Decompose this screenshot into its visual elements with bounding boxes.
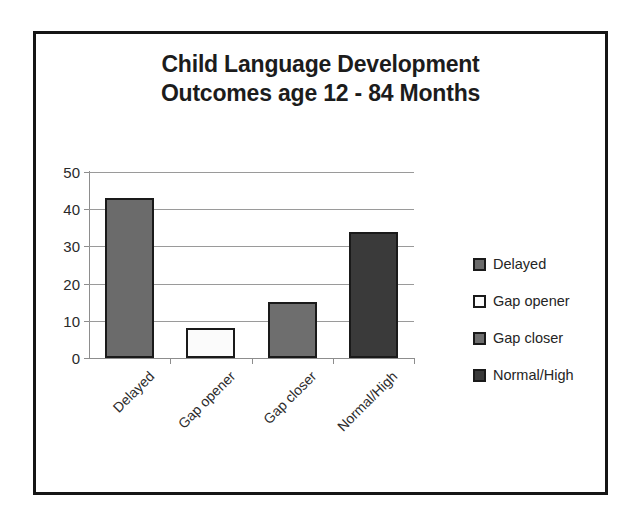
x-tick-label-gap-opener: Gap opener (175, 368, 239, 432)
legend-item-gap-closer[interactable]: Gap closer (473, 330, 603, 346)
chart-legend: DelayedGap openerGap closerNormal/High (473, 256, 603, 404)
bar-gap-opener (186, 328, 235, 358)
legend-label: Gap closer (493, 330, 563, 346)
y-tick-label-20: 20 (63, 275, 80, 292)
x-tick-1 (170, 358, 171, 364)
x-tick-label-gap-closer: Gap closer (260, 368, 319, 427)
y-tick-label-50: 50 (63, 164, 80, 181)
y-tick-label-40: 40 (63, 201, 80, 218)
y-axis-line (89, 171, 90, 359)
legend-label: Delayed (493, 256, 546, 272)
bar-normal-high (349, 232, 398, 358)
bar-delayed (105, 198, 154, 358)
bar-gap-closer (268, 302, 317, 358)
y-tick-label-30: 30 (63, 238, 80, 255)
chart-title-line-2: Outcomes age 12 - 84 Months (36, 79, 605, 108)
legend-swatch-icon (473, 295, 486, 308)
y-tick-20 (84, 284, 89, 285)
y-tick-30 (84, 246, 89, 247)
chart-frame: Child Language Development Outcomes age … (33, 31, 608, 495)
y-tick-label-0: 0 (72, 350, 80, 367)
legend-item-delayed[interactable]: Delayed (473, 256, 603, 272)
x-axis-ticks (89, 358, 414, 364)
y-tick-50 (84, 172, 89, 173)
x-tick-3 (333, 358, 334, 364)
legend-item-normal-high[interactable]: Normal/High (473, 367, 603, 383)
legend-label: Gap opener (493, 293, 570, 309)
legend-label: Normal/High (493, 367, 574, 383)
x-tick-label-normal-high: Normal/High (334, 368, 400, 434)
legend-swatch-icon (473, 369, 486, 382)
chart-title: Child Language Development Outcomes age … (36, 50, 605, 109)
y-tick-40 (84, 209, 89, 210)
y-tick-10 (84, 321, 89, 322)
legend-swatch-icon (473, 332, 486, 345)
chart-title-line-1: Child Language Development (36, 50, 605, 79)
y-tick-label-10: 10 (63, 312, 80, 329)
legend-item-gap-opener[interactable]: Gap opener (473, 293, 603, 309)
plot-area: 01020304050 DelayedGap openerGap closerN… (89, 172, 414, 358)
legend-swatch-icon (473, 258, 486, 271)
gridline-50 (89, 172, 414, 173)
x-tick-2 (252, 358, 253, 364)
x-tick-4 (414, 358, 415, 364)
x-tick-label-delayed: Delayed (109, 368, 157, 416)
